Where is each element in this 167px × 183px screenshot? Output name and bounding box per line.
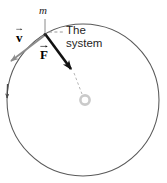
mass-label: m <box>39 5 47 16</box>
radius-dashed-line <box>74 73 82 94</box>
velocity-vector-label: v <box>16 31 23 44</box>
force-vector-label: F <box>40 48 48 61</box>
system-annotation-line1: The <box>66 24 86 36</box>
circular-motion-figure: m v F The system <box>0 0 167 183</box>
force-vector-label-text: F <box>40 48 48 61</box>
mass-point-marker <box>43 33 46 36</box>
velocity-vector-label-text: v <box>16 31 23 44</box>
vector-overarrow-icon <box>40 44 48 48</box>
system-annotation-line2: system <box>66 38 102 50</box>
center-ring-icon <box>80 95 89 104</box>
direction-of-motion-tick <box>7 84 8 98</box>
system-annotation: The system <box>66 25 102 49</box>
vector-overarrow-icon <box>16 27 23 31</box>
